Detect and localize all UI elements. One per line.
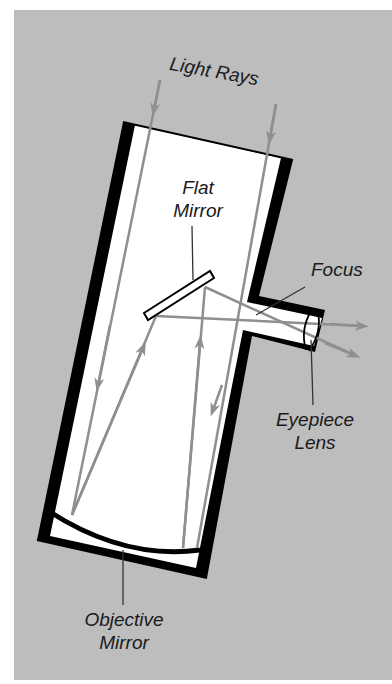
eyepiece-label-line2: Lens [270,431,360,454]
diagram-graphics [0,0,392,684]
flat-mirror-label-line2: Mirror [166,199,230,222]
telescope-diagram: Light Rays Flat Mirror Focus Eyepiece Le… [0,0,392,684]
flat-mirror-label-line1: Flat [166,176,230,199]
eyepiece-label-line1: Eyepiece [270,408,360,431]
eyepiece-lens-label: Eyepiece Lens [270,408,360,454]
objective-mirror-label: Objective Mirror [76,608,172,654]
focus-label: Focus [311,258,363,281]
objective-label-line2: Mirror [76,631,172,654]
flat-mirror-label: Flat Mirror [166,176,230,222]
objective-label-line1: Objective [76,608,172,631]
